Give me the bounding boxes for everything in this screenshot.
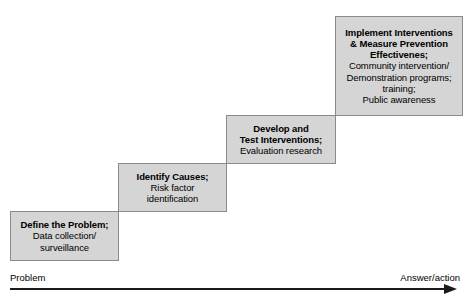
step-box-define-the-problem: Define the Problem; Data collection/ sur… [10, 211, 119, 261]
axis-arrow-icon [444, 284, 457, 294]
step-heading: Identify Causes; [137, 171, 209, 182]
step-box-develop-and-test-interventions: Develop and Test Interventions; Evaluati… [226, 115, 336, 164]
step-body-line: identification [147, 193, 198, 204]
step-body-line: surveillance [40, 242, 89, 253]
step-heading-line: Test Interventions; [240, 134, 322, 145]
step-heading-line: Effectivenes; [370, 49, 428, 60]
diagram-canvas: Define the Problem; Data collection/ sur… [0, 0, 474, 302]
step-body-line: Demonstration programs; [347, 72, 452, 83]
step-heading-line: Implement Interventions [345, 27, 453, 38]
step-heading-line: Develop and [253, 123, 308, 134]
step-body-line: Community intervention/ [349, 60, 449, 71]
step-heading-line: & Measure Prevention [350, 38, 448, 49]
step-heading: Define the Problem; [21, 219, 109, 230]
axis-line [10, 288, 450, 290]
step-body-line: Public awareness [363, 94, 436, 105]
step-box-identify-causes: Identify Causes; Risk factor identificat… [118, 163, 227, 212]
step-body-line: Evaluation research [240, 145, 322, 156]
step-body-line: training; [383, 83, 416, 94]
step-box-implement-interventions: Implement Interventions & Measure Preven… [335, 16, 463, 116]
axis-label-problem: Problem [10, 272, 45, 283]
step-body-line: Risk factor [151, 182, 195, 193]
axis-label-answer-action: Answer/action [400, 272, 460, 283]
step-body-line: Data collection/ [33, 230, 96, 241]
